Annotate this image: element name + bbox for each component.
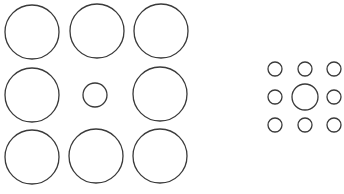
- left-surrounding-circle: [5, 68, 59, 122]
- left-surrounding-circle: [133, 67, 187, 121]
- right-surrounding-circle: [268, 62, 282, 76]
- right-surrounding-circle: [327, 118, 341, 132]
- right-surrounding-circle: [268, 118, 282, 132]
- left-surrounding-circle: [5, 5, 59, 59]
- right-surrounding-circle: [268, 90, 282, 104]
- right-surrounding-circle: [298, 118, 312, 132]
- right-surrounding-circle: [298, 62, 312, 76]
- left-surrounding-circle: [70, 4, 124, 58]
- left-surrounding-circle: [69, 129, 123, 183]
- right-surrounding-circle: [327, 62, 341, 76]
- left-circle-group: [5, 4, 188, 184]
- left-surrounding-circle: [133, 129, 187, 183]
- right-center-circle: [292, 84, 318, 110]
- ebbinghaus-illusion-diagram: [0, 0, 344, 194]
- left-surrounding-circle: [5, 130, 59, 184]
- right-circle-group: [268, 62, 341, 132]
- right-surrounding-circle: [327, 90, 341, 104]
- left-center-circle: [83, 83, 107, 107]
- left-surrounding-circle: [134, 4, 188, 58]
